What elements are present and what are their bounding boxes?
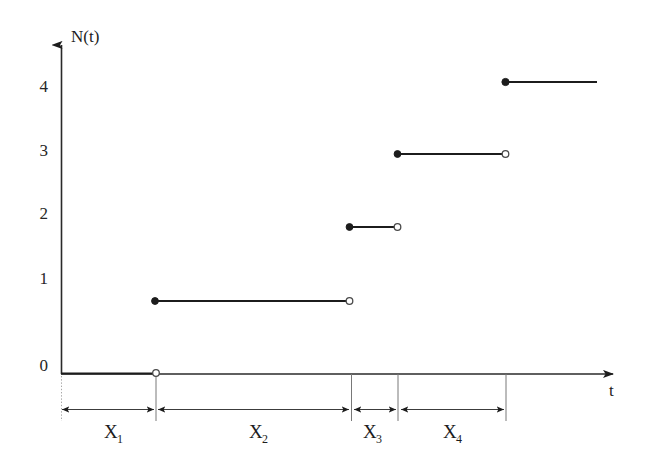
step-markers-group <box>152 78 510 376</box>
y-tick-label-0: 0 <box>40 356 49 375</box>
interval-label-x4-base: X <box>443 421 457 442</box>
interval-label-x3: X 3 <box>363 421 382 446</box>
jump-time-guides-group <box>62 374 507 421</box>
interval-label-x1-subscript: 1 <box>117 432 123 446</box>
interval-label-x1: X 1 <box>104 421 123 446</box>
filled-marker-level-4 <box>502 78 509 85</box>
x-axis-label: t <box>609 381 614 400</box>
y-tick-label-3: 3 <box>40 141 49 160</box>
y-tick-labels-group: 4 3 2 1 0 <box>40 77 49 375</box>
filled-marker-level-2 <box>346 224 353 231</box>
counting-process-chart: N(t) t 4 3 2 1 0 <box>0 0 655 467</box>
filled-marker-level-1 <box>152 298 159 305</box>
y-tick-label-1: 1 <box>40 269 49 288</box>
interval-label-x2: X 2 <box>249 421 268 446</box>
interval-label-x4-subscript: 4 <box>456 432 462 446</box>
open-marker-level-1 <box>346 298 353 305</box>
step-function-group <box>61 82 597 374</box>
open-marker-level-0 <box>153 370 160 377</box>
interval-label-x3-subscript: 3 <box>376 432 382 446</box>
filled-marker-level-3 <box>394 151 401 158</box>
y-tick-label-4: 4 <box>40 77 49 96</box>
interval-label-x2-subscript: 2 <box>262 432 268 446</box>
figure-root: N(t) t 4 3 2 1 0 <box>0 0 655 467</box>
interval-labels-group: X 1 X 2 X 3 X 4 <box>104 421 462 446</box>
interval-label-x3-base: X <box>363 421 377 442</box>
axes-group <box>61 45 613 374</box>
interval-label-x1-base: X <box>104 421 118 442</box>
y-axis-label: N(t) <box>71 27 99 46</box>
interval-label-x4: X 4 <box>443 421 462 446</box>
interval-label-x2-base: X <box>249 421 263 442</box>
open-marker-level-2 <box>394 224 401 231</box>
open-marker-level-3 <box>502 151 509 158</box>
y-tick-label-2: 2 <box>40 204 49 223</box>
